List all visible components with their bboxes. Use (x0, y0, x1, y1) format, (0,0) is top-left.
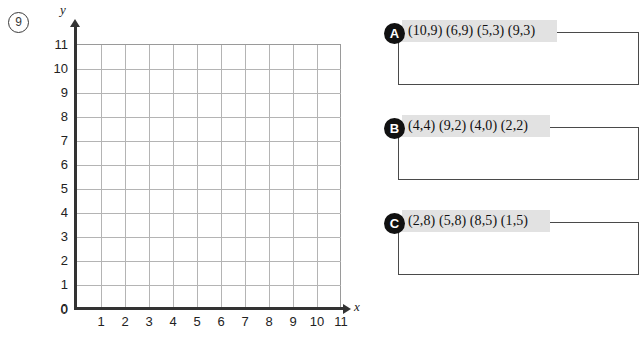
gridline-vertical (197, 45, 198, 309)
gridline-horizontal (77, 117, 341, 118)
gridline-horizontal (77, 141, 341, 142)
y-tick-label: 2 (46, 254, 68, 267)
x-tick-label: 4 (161, 315, 185, 328)
x-tick-label: 10 (305, 315, 329, 328)
answer-badge-b: B (384, 118, 405, 139)
x-tick-label: 2 (113, 315, 137, 328)
answer-coordinates-b: (4,4) (9,2) (4,0) (2,2) (402, 115, 550, 137)
answer-badge-c: C (384, 213, 405, 234)
x-tick-label: 0 (52, 303, 76, 316)
coordinate-graph: y x 01234567891011 01234567891011 (0, 0, 380, 347)
gridline-vertical (221, 45, 222, 309)
gridline-vertical (245, 45, 246, 309)
gridline-horizontal (77, 261, 341, 262)
gridline-horizontal (77, 213, 341, 214)
x-axis-tick-labels: 01234567891011 (0, 315, 380, 335)
answer-coordinates-a: (10,9) (6,9) (5,3) (9,3) (402, 20, 557, 42)
x-tick-label: 3 (137, 315, 161, 328)
x-tick-label: 5 (185, 315, 209, 328)
y-axis-line (74, 26, 77, 310)
x-axis-label: x (354, 299, 360, 315)
x-tick-label: 1 (89, 315, 113, 328)
y-axis-tick-labels: 01234567891011 (40, 0, 68, 347)
y-tick-label: 7 (46, 134, 68, 147)
gridline-vertical (293, 45, 294, 309)
gridline-vertical (173, 45, 174, 309)
y-tick-label: 8 (46, 110, 68, 123)
answer-option-b[interactable]: B (4,4) (9,2) (4,0) (2,2) (384, 113, 640, 185)
y-tick-label: 1 (46, 278, 68, 291)
y-tick-label: 6 (46, 158, 68, 171)
answer-coordinates-c: (2,8) (5,8) (8,5) (1,5) (402, 210, 550, 232)
gridline-horizontal (77, 285, 341, 286)
answer-option-a[interactable]: A (10,9) (6,9) (5,3) (9,3) (384, 18, 640, 90)
y-tick-label: 5 (46, 182, 68, 195)
answer-badge-a: A (384, 23, 405, 44)
gridline-vertical (269, 45, 270, 309)
x-tick-label: 9 (281, 315, 305, 328)
gridline-vertical (101, 45, 102, 309)
gridline-horizontal (77, 69, 341, 70)
x-axis-line (74, 307, 344, 310)
y-tick-label: 11 (46, 38, 68, 51)
graph-grid (77, 44, 341, 308)
gridline-vertical (149, 45, 150, 309)
x-axis-arrow-icon (343, 304, 351, 314)
x-tick-label: 7 (233, 315, 257, 328)
gridline-horizontal (77, 93, 341, 94)
y-axis-arrow-icon (70, 19, 80, 27)
x-tick-label: 11 (329, 315, 353, 328)
y-tick-label: 9 (46, 86, 68, 99)
gridline-vertical (317, 45, 318, 309)
gridline-vertical (125, 45, 126, 309)
gridline-horizontal (77, 237, 341, 238)
x-tick-label: 8 (257, 315, 281, 328)
y-tick-label: 10 (46, 62, 68, 75)
y-tick-label: 4 (46, 206, 68, 219)
gridline-horizontal (77, 165, 341, 166)
y-tick-label: 3 (46, 230, 68, 243)
x-tick-label: 6 (209, 315, 233, 328)
gridline-horizontal (77, 189, 341, 190)
answer-option-c[interactable]: C (2,8) (5,8) (8,5) (1,5) (384, 208, 640, 280)
